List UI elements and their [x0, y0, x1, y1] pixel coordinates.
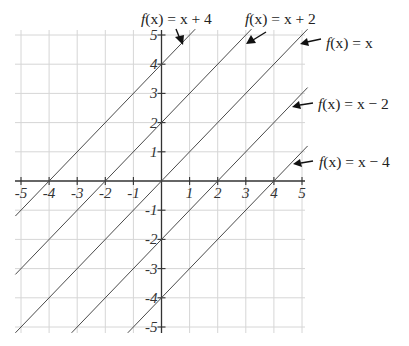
- function-annotations: f(x) = x + 4 f(x) = x + 2 f(x) = x f(x) …: [141, 10, 390, 171]
- x-tick-label: -4: [43, 185, 56, 201]
- x-tick-label: -1: [127, 185, 140, 201]
- x-tick-label: 3: [241, 185, 250, 201]
- label-x-plus-4: f(x) = x + 4: [141, 10, 212, 28]
- arrow-icon: [293, 159, 313, 167]
- y-tick-label: -1: [145, 202, 158, 218]
- label-x: f(x) = x: [326, 34, 373, 52]
- x-tick-label: -2: [99, 185, 112, 201]
- y-tick-label: -5: [145, 319, 158, 335]
- x-tick-label: -3: [71, 185, 84, 201]
- y-tick-label: -3: [145, 261, 158, 277]
- x-tick-label: 4: [270, 185, 278, 201]
- y-tick-label: 3: [149, 85, 158, 101]
- label-x-plus-2: f(x) = x + 2: [245, 10, 316, 28]
- label-x-minus-4: f(x) = x − 4: [319, 153, 390, 171]
- y-tick-label: 5: [150, 27, 158, 43]
- y-tick-label: 1: [150, 144, 158, 160]
- arrow-icon: [300, 38, 321, 46]
- arrow-icon: [246, 32, 266, 44]
- x-tick-label: 5: [298, 185, 306, 201]
- x-tick-label: -5: [15, 185, 28, 201]
- x-tick-label: 2: [214, 185, 222, 201]
- label-x-minus-2: f(x) = x − 2: [318, 95, 389, 113]
- linear-functions-graph: -5-4-3-2-11234554321-1-2-3-4-5 f(x) = x …: [0, 0, 409, 346]
- x-tick-label: 1: [186, 185, 194, 201]
- arrow-icon: [175, 29, 184, 45]
